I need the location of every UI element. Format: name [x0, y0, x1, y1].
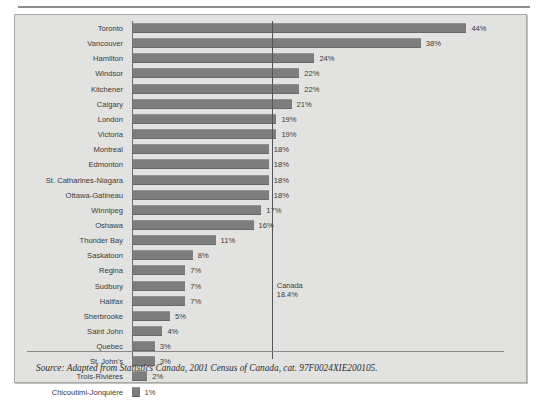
canada-reference-name: Canada: [277, 281, 303, 290]
bar-row: Montreal18%: [15, 142, 526, 157]
bar-row: Halifax7%: [15, 294, 526, 309]
bar-category-label: Toronto: [15, 21, 123, 36]
bar-row: Quebec3%: [15, 339, 526, 354]
bar: [132, 99, 292, 109]
bar: [132, 296, 185, 306]
bar: [132, 38, 421, 48]
bar-row: Regina7%: [15, 263, 526, 278]
bar: [132, 190, 269, 200]
bar-chart-plot-area: Toronto44%Vancouver38%Hamilton24%Windsor…: [15, 15, 526, 360]
bar-category-label: Ottawa-Gatineau: [15, 188, 123, 203]
figure-panel: Toronto44%Vancouver38%Hamilton24%Windsor…: [14, 14, 527, 383]
bar-category-label: Windsor: [15, 66, 123, 81]
bar-category-label: Quebec: [15, 339, 123, 354]
bar-category-label: Halifax: [15, 294, 123, 309]
bar-value-label: 19%: [281, 127, 296, 142]
bar: [132, 53, 314, 63]
bar-value-label: 8%: [198, 248, 209, 263]
bar-value-label: 21%: [297, 97, 312, 112]
bar-value-label: 19%: [281, 112, 296, 127]
bar-category-label: Thunder Bay: [15, 233, 123, 248]
bar-row: Winnipeg17%: [15, 203, 526, 218]
bar-row: Kitchener22%: [15, 82, 526, 97]
bar: [132, 159, 269, 169]
bar-value-label: 4%: [167, 324, 178, 339]
canada-reference-annotation: Canada 18.4%: [277, 281, 303, 300]
canada-reference-line: [272, 21, 273, 359]
bar-row: London19%: [15, 112, 526, 127]
bar-row: Saskatoon8%: [15, 248, 526, 263]
bar: [132, 144, 269, 154]
top-divider-rule: [18, 6, 530, 8]
bar: [132, 129, 276, 139]
bar-value-label: 44%: [471, 21, 486, 36]
bar-value-label: 18%: [274, 142, 289, 157]
bar-value-label: 7%: [190, 263, 201, 278]
bar-value-label: 18%: [274, 188, 289, 203]
bar-value-label: 11%: [221, 233, 236, 248]
canada-reference-value: 18.4%: [277, 290, 303, 299]
bar-row: Oshawa16%: [15, 218, 526, 233]
bar-category-label: Chicoutimi-Jonquière: [15, 385, 123, 400]
bar: [132, 175, 269, 185]
bar-row: Sherbrooke5%: [15, 309, 526, 324]
bar-category-label: Saint John: [15, 324, 123, 339]
bar-value-label: 7%: [190, 294, 201, 309]
bar-row: Thunder Bay11%: [15, 233, 526, 248]
bar-category-label: Oshawa: [15, 218, 123, 233]
bar-category-label: London: [15, 112, 123, 127]
bar-row: Edmonton18%: [15, 157, 526, 172]
bar-value-label: 18%: [274, 173, 289, 188]
bar-category-label: Winnipeg: [15, 203, 123, 218]
bar: [132, 23, 466, 33]
bar: [132, 326, 162, 336]
bar-value-label: 22%: [304, 66, 319, 81]
bar-row: Chicoutimi-Jonquière1%: [15, 385, 526, 400]
bar-row: Calgary21%: [15, 97, 526, 112]
bar: [132, 311, 170, 321]
bar: [132, 220, 254, 230]
bar: [132, 68, 299, 78]
bar-category-label: Edmonton: [15, 157, 123, 172]
bar-value-label: 3%: [160, 339, 171, 354]
bar: [132, 235, 216, 245]
bar-value-label: 1%: [145, 385, 156, 400]
bar: [132, 114, 276, 124]
bar-category-label: Saskatoon: [15, 248, 123, 263]
bar-category-label: St. Catharines-Niagara: [15, 173, 123, 188]
source-divider: [27, 351, 504, 352]
bar-row: Victoria19%: [15, 127, 526, 142]
bar-category-label: Hamilton: [15, 51, 123, 66]
bar: [132, 84, 299, 94]
bar-value-label: 22%: [304, 82, 319, 97]
bar-row: Saint John4%: [15, 324, 526, 339]
bar-category-label: Kitchener: [15, 82, 123, 97]
bar-row: Hamilton24%: [15, 51, 526, 66]
bar: [132, 341, 155, 351]
bar-value-label: 17%: [266, 203, 281, 218]
bar-row: Vancouver38%: [15, 36, 526, 51]
bar: [132, 265, 185, 275]
bar-category-label: Sherbrooke: [15, 309, 123, 324]
bar-category-label: Sudbury: [15, 279, 123, 294]
bar: [132, 205, 261, 215]
bar: [132, 250, 193, 260]
bar-value-label: 5%: [175, 309, 186, 324]
bar-category-label: Regina: [15, 263, 123, 278]
value-axis-baseline: [132, 21, 133, 359]
bar-category-label: Vancouver: [15, 36, 123, 51]
bar-row: Windsor22%: [15, 66, 526, 81]
bar-row: Toronto44%: [15, 21, 526, 36]
bar-value-label: 24%: [319, 51, 334, 66]
bar-value-label: 18%: [274, 157, 289, 172]
bar-row: Ottawa-Gatineau18%: [15, 188, 526, 203]
source-note: Source: Adapted from Statistics Canada, …: [36, 363, 378, 373]
bar: [132, 387, 140, 397]
bar-category-label: Victoria: [15, 127, 123, 142]
bar-category-label: Montreal: [15, 142, 123, 157]
bar-row: Sudbury7%: [15, 279, 526, 294]
bar-row: St. Catharines-Niagara18%: [15, 173, 526, 188]
bar: [132, 281, 185, 291]
bar-category-label: Calgary: [15, 97, 123, 112]
bar-value-label: 38%: [426, 36, 441, 51]
